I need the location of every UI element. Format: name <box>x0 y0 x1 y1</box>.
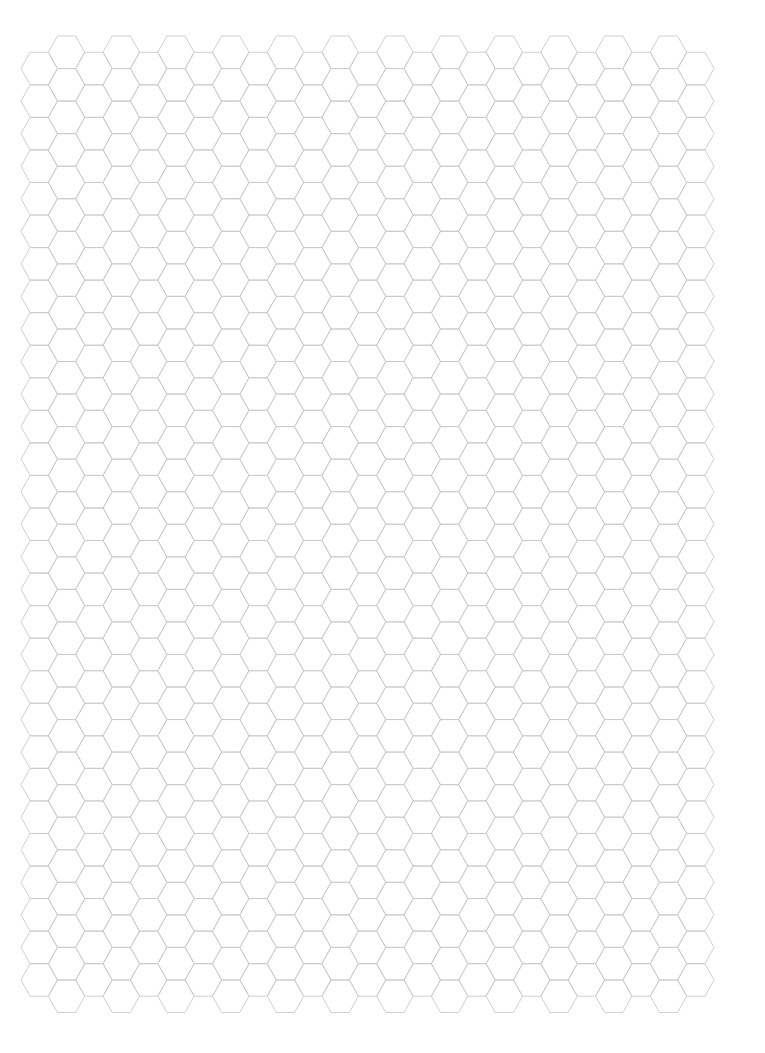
hex-grid-lines <box>21 36 714 1012</box>
graph-paper-page <box>0 0 765 1053</box>
hex-grid <box>0 0 765 1053</box>
